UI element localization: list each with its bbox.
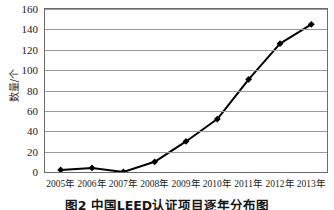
gridline xyxy=(45,29,327,30)
gridline xyxy=(45,91,327,92)
data-point-marker xyxy=(89,165,96,172)
gridline xyxy=(45,50,327,51)
gridline xyxy=(45,111,327,112)
plot-area xyxy=(44,8,328,173)
gridline xyxy=(45,9,327,10)
y-tick-label: 40 xyxy=(6,125,38,137)
y-tick-label: 80 xyxy=(6,85,38,97)
y-tick-label: 160 xyxy=(6,3,38,15)
gridline xyxy=(45,70,327,71)
y-tick-label: 140 xyxy=(6,23,38,35)
figure-caption: 图2 中国LEED认证项目逐年分布图 xyxy=(0,195,334,210)
y-tick-label: 100 xyxy=(6,64,38,76)
y-tick-label: 20 xyxy=(6,146,38,158)
y-tick-label: 60 xyxy=(6,105,38,117)
y-tick-label: 120 xyxy=(6,44,38,56)
y-tick-label: 0 xyxy=(6,166,38,178)
data-point-marker xyxy=(57,167,64,172)
gridline xyxy=(45,131,327,132)
series-line xyxy=(61,24,312,172)
figure-container: 数量/个 020406080100120140160 2005年2006年200… xyxy=(0,0,334,210)
x-tick-label: 2013年 xyxy=(289,176,333,190)
gridline xyxy=(45,152,327,153)
